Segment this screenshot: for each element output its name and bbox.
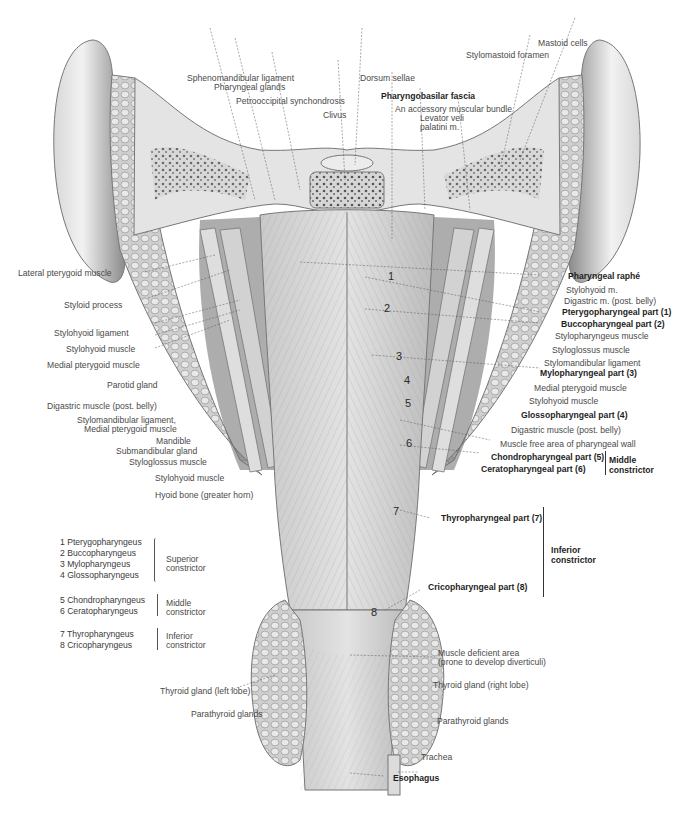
number-2: 2 [384,302,390,314]
label-buccopharyngeal-part: Buccopharyngeal part (2) [561,319,665,329]
label-digastric-m: Digastric m. (post. belly) [564,296,656,306]
label-chondropharyngeal-part: Chondropharyngeal part (5) [491,452,604,462]
label-styloglossus-right: Styloglossus muscle [552,345,630,355]
label-stylomastoid-foramen: Stylomastoid foramen [466,50,549,60]
dorsum-sellae [321,155,373,171]
label-dorsum-sellae: Dorsum sellae [360,73,415,83]
label-inferior-constrictor-2: constrictor [551,555,596,565]
label-styloglossus: Styloglossus muscle [129,457,207,467]
label-esophagus: Esophagus [393,773,439,783]
legend-item: 4 Glossopharyngeus [60,570,139,581]
label-middle-constrictor-1: Middle [609,455,636,465]
label-stylohyoid-muscle-2: Stylohyoid muscle [155,473,224,483]
label-mandible: Mandible [156,436,191,446]
label-hyoid-bone: Hyoid bone (greater horn) [155,490,253,500]
label-trachea: Trachea [421,752,452,762]
legend-item: 1 Pterygopharyngeus [60,537,142,548]
inferior-constrictor-bracket [543,507,545,597]
inferior-constrictor-brace [157,628,161,650]
label-petrooccipital-synchondrosis: Petrooccipital synchondrosis [236,96,345,106]
label-mylopharyngeal-part: Mylopharyngeal part (3) [540,368,637,378]
label-clivus: Clivus [323,110,346,120]
label-submandibular-gland: Submandibular gland [116,446,197,456]
number-8: 8 [371,606,377,618]
number-4: 4 [404,374,410,386]
label-stylohyoid-muscle: Stylohyoid muscle [66,344,135,354]
number-6: 6 [406,437,412,449]
number-7: 7 [393,505,399,517]
legend-middle-2: constrictor [166,607,206,617]
label-pharyngobasilar-fascia: Pharyngobasilar fascia [381,91,475,101]
label-pharyngeal-glands: Pharyngeal glands [214,82,285,92]
number-3: 3 [396,350,402,362]
legend-item: 6 Ceratopharyngeus [60,606,138,617]
number-5: 5 [405,397,411,409]
thyroid-left-lobe [251,600,307,766]
label-cricopharyngeal-part: Cricopharyngeal part (8) [428,582,527,592]
label-middle-constrictor-2: constrictor [609,465,654,475]
legend-item: 8 Cricopharyngeus [60,640,132,651]
label-medial-pterygoid: Medial pterygoid muscle [47,360,140,370]
middle-constrictor-bracket [605,451,607,475]
legend-item: 3 Mylopharyngeus [60,559,130,570]
superior-constrictor-brace [154,538,158,582]
label-thyroid-right: Thyroid gland (right lobe) [433,680,529,690]
label-stylohyoid-ligament: Stylohyoid ligament [54,328,129,338]
label-muscle-deficient-2: (prone to develop diverticuli) [438,657,546,667]
label-thyroid-left: Thyroid gland (left lobe) [160,686,250,696]
label-muscle-free-area: Muscle free area of pharyngeal wall [500,439,636,449]
label-glossopharyngeal-part: Glossopharyngeal part (4) [521,410,628,420]
number-1: 1 [388,270,394,282]
label-stylomandibular-right: Stylomandibular ligament [544,358,641,368]
label-parathyroid-left: Parathyroid glands [191,709,263,719]
label-stylohyoid-muscle-right: Stylohyoid muscle [529,396,598,406]
label-digastric-right: Digastric muscle (post. belly) [511,425,621,435]
label-ceratopharyngeal-part: Ceratopharyngeal part (6) [481,464,586,474]
legend-item: 2 Buccopharyngeus [60,548,136,559]
label-mastoid-cells: Mastoid cells [538,38,588,48]
label-pterygopharyngeal-part: Pterygopharyngeal part (1) [562,307,671,317]
legend-superior-2: constrictor [166,563,206,573]
label-styloid-process: Styloid process [64,300,122,310]
label-digastric: Digastric muscle (post. belly) [47,401,157,411]
legend-item: 7 Thyropharyngeus [60,629,134,640]
legend-item: 5 Chondropharyngeus [60,595,145,606]
legend-inferior-2: constrictor [166,640,206,650]
label-stylomandibular-2: Medial pterygoid muscle [84,424,177,434]
label-stylohyoid-m: Stylohyoid m. [566,285,618,295]
label-lateral-pterygoid: Lateral pterygoid muscle [18,268,112,278]
label-medial-pterygoid-right: Medial pterygoid muscle [534,383,627,393]
label-stylopharyngeus: Stylopharyngeus muscle [555,331,649,341]
label-thyropharyngeal-part: Thyropharyngeal part (7) [441,513,542,523]
middle-constrictor-brace [157,594,161,616]
label-parotid-gland: Parotid gland [107,380,158,390]
label-levator-veli-2: palatini m. [420,122,459,132]
label-pharyngeal-raphe: Pharyngeal raphé [568,271,640,281]
label-inferior-constrictor-1: Inferior [551,545,581,555]
label-parathyroid-right: Parathyroid glands [437,716,509,726]
clivus [310,172,384,208]
